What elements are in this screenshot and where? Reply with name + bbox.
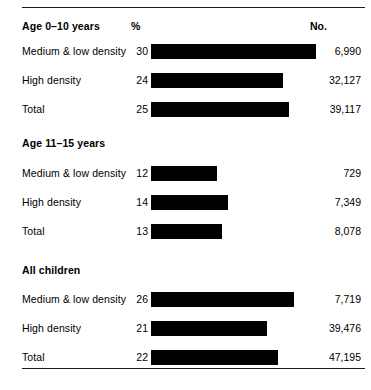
row-count-value: 7,719	[335, 293, 361, 305]
bar-track	[151, 166, 217, 181]
row-count-value: 729	[343, 167, 361, 179]
row-percent-value: 14	[108, 196, 148, 208]
row-percent-value: 25	[108, 103, 148, 115]
group-title-1: Age 11–15 years	[22, 137, 105, 149]
bar	[151, 73, 283, 88]
row-percent-value: 12	[108, 167, 148, 179]
row-percent-value: 13	[108, 225, 148, 237]
bar	[151, 350, 278, 365]
bar	[151, 292, 294, 307]
row-percent-value: 21	[108, 322, 148, 334]
bar-track	[151, 73, 283, 88]
row-label: Total	[22, 225, 45, 237]
row-label: High density	[22, 322, 81, 334]
bar-track	[151, 224, 222, 239]
bar	[151, 44, 316, 59]
row-count-value: 39,476	[329, 322, 361, 334]
row-label: Total	[22, 351, 45, 363]
bar-track	[151, 350, 278, 365]
bar-track	[151, 321, 267, 336]
bar	[151, 321, 267, 336]
bar-track	[151, 292, 294, 307]
row-percent-value: 30	[108, 45, 148, 57]
bottom-rule	[22, 368, 365, 369]
bar-track	[151, 102, 289, 117]
row-count-value: 32,127	[329, 74, 361, 86]
row-percent-value: 22	[108, 351, 148, 363]
bar	[151, 195, 228, 210]
bar	[151, 166, 217, 181]
row-count-value: 8,078	[335, 225, 361, 237]
row-percent-value: 26	[108, 293, 148, 305]
row-count-value: 47,195	[329, 351, 361, 363]
column-header-number: No.	[310, 20, 327, 32]
bar-track	[151, 44, 316, 59]
group-title-2: All children	[22, 264, 80, 276]
bar-track	[151, 195, 228, 210]
bar	[151, 224, 222, 239]
row-label: High density	[22, 196, 81, 208]
row-count-value: 39,117	[330, 103, 361, 115]
column-header-percent: %	[131, 20, 140, 32]
chart-sheet: Age 0–10 years % No. Medium & low densit…	[0, 0, 371, 390]
row-label: Total	[22, 103, 45, 115]
row-label: High density	[22, 74, 81, 86]
row-count-value: 7,349	[335, 196, 361, 208]
bar	[151, 102, 289, 117]
row-count-value: 6,990	[335, 45, 361, 57]
row-percent-value: 24	[108, 74, 148, 86]
group-title-0: Age 0–10 years	[22, 20, 100, 32]
top-rule	[22, 7, 365, 8]
